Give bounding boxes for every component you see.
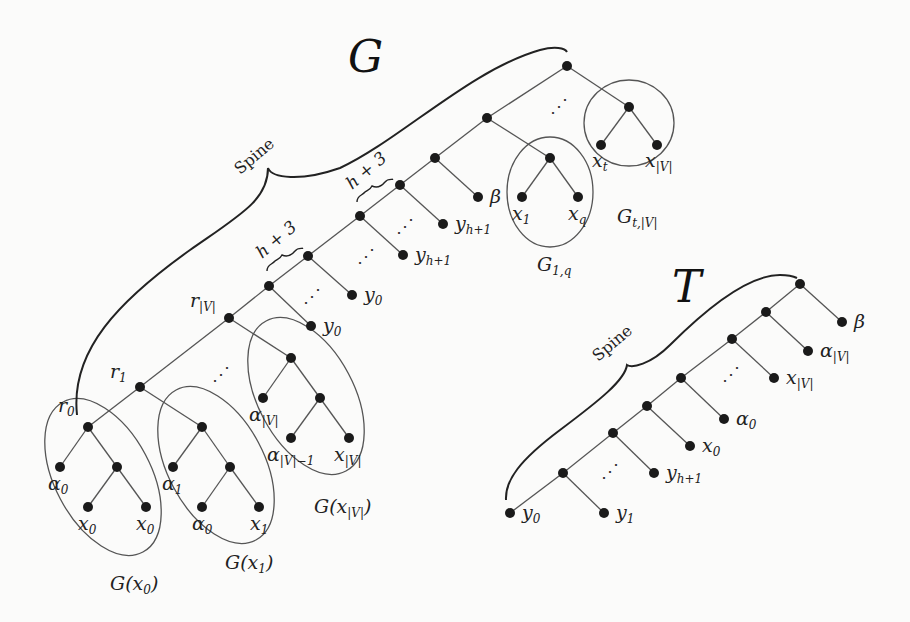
spine-label-t: Spine: [588, 321, 636, 365]
node: [599, 508, 609, 518]
node: [438, 219, 448, 229]
node: [624, 102, 634, 112]
label-y0: y0: [322, 314, 342, 339]
label-y1: y1: [615, 501, 634, 526]
label-alpha0: α0: [48, 472, 69, 497]
label-x0: x0: [702, 434, 721, 459]
label-y0: y0: [521, 501, 541, 526]
node: [837, 317, 847, 327]
node: [344, 433, 354, 443]
node: [141, 502, 151, 512]
label-y0: y0: [363, 283, 383, 308]
gadget-label-g-x0: G(x0): [110, 572, 158, 597]
spine-brace-t: [506, 275, 797, 500]
node: [649, 468, 659, 478]
ellipsis: ⋰: [601, 460, 619, 481]
node: [135, 382, 145, 392]
label-y-h1: yh+1: [414, 243, 451, 268]
label-alpha1: α1: [162, 472, 182, 497]
node: [545, 153, 555, 163]
gadget-label-g-1-q: G1,q: [537, 253, 572, 278]
node: [803, 346, 813, 356]
node: [303, 251, 313, 261]
tree-g-edges: [60, 66, 657, 507]
node: [685, 441, 695, 451]
h3-label-lower: h + 3: [252, 217, 301, 262]
label-y-h1: yh+1: [454, 212, 491, 237]
node: [225, 462, 235, 472]
label-y-h1: yh+1: [665, 461, 702, 486]
node: [286, 433, 296, 443]
node: [769, 373, 779, 383]
tree-g-title: G: [348, 31, 383, 82]
label-alpha-v: α|V|: [820, 339, 850, 364]
label-x0: x0: [78, 512, 97, 537]
node: [112, 462, 122, 472]
node: [83, 502, 93, 512]
node: [642, 401, 652, 411]
ellipsis: ⋰: [396, 215, 414, 236]
node: [727, 334, 737, 344]
tree-t-title: T: [672, 261, 705, 312]
node: [430, 153, 440, 163]
ellipsis: ⋰: [550, 95, 568, 116]
node: [347, 290, 357, 300]
node: [197, 502, 207, 512]
ellipsis: ⋰: [212, 363, 230, 384]
node: [315, 393, 325, 403]
label-alpha-v-1: α|V|−1: [267, 443, 314, 468]
label-x1: x1: [250, 512, 268, 537]
tree-g-nodes: [55, 61, 662, 512]
node: [608, 428, 618, 438]
spine-brace-g: [76, 48, 567, 415]
node: [573, 192, 583, 202]
gadget-label-g-xv: G(x|V|): [314, 495, 372, 520]
node: [286, 353, 296, 363]
node: [473, 192, 483, 202]
label-x0: x0: [136, 512, 155, 537]
label-beta-g: β: [489, 185, 501, 207]
node: [224, 313, 234, 323]
label-r0: r0: [58, 394, 75, 419]
node: [264, 281, 274, 291]
node: [55, 462, 65, 472]
node: [517, 192, 527, 202]
label-xq: xq: [568, 202, 587, 227]
label-x-v: x|V|: [645, 149, 672, 174]
node: [197, 422, 207, 432]
tree-g: Spine h + 3 h + 3 G ⋰ ⋰ ⋰ ⋰ ⋰ r|V| r1 r0…: [21, 31, 674, 597]
ellipsis: ⋰: [357, 245, 375, 266]
label-r1: r1: [110, 360, 127, 385]
label-r-v: r|V|: [190, 289, 216, 314]
gadget-label-g-t-v: Gt,|V|: [617, 205, 658, 230]
ellipsis: ⋰: [722, 363, 740, 384]
node: [83, 422, 93, 432]
node: [795, 279, 805, 289]
node: [398, 250, 408, 260]
node: [761, 307, 771, 317]
label-alpha0: α0: [736, 407, 757, 432]
node: [719, 414, 729, 424]
label-beta-t: β: [853, 310, 865, 332]
node: [395, 180, 405, 190]
node: [558, 468, 568, 478]
label-alpha0: α0: [192, 512, 213, 537]
label-alpha-v: α|V|: [249, 403, 279, 428]
node: [254, 502, 264, 512]
label-x-v: x|V|: [786, 366, 813, 391]
node: [562, 61, 572, 71]
label-x-v: x|V|: [334, 443, 361, 468]
tree-t: Spine T ⋰ ⋰ β α|V| x|V| α0 x0 yh+1 y1 y0: [505, 261, 865, 526]
node: [482, 113, 492, 123]
gadget-label-g-x1: G(x1): [225, 551, 273, 576]
node: [258, 393, 268, 403]
label-xt: xt: [592, 149, 608, 174]
tree-diagram: Spine h + 3 h + 3 G ⋰ ⋰ ⋰ ⋰ ⋰ r|V| r1 r0…: [0, 0, 910, 622]
label-x1: x1: [512, 202, 530, 227]
node: [505, 508, 515, 518]
node: [168, 462, 178, 472]
node: [306, 321, 316, 331]
ellipsis: ⋰: [303, 285, 321, 306]
node: [355, 211, 365, 221]
node: [676, 373, 686, 383]
